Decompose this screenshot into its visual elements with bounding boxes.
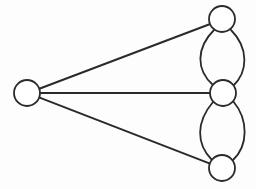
node-bottom[interactable]	[209, 155, 235, 181]
edge-middle-to-bottom-right-arc	[233, 101, 245, 160]
edge-left-to-bottom	[39, 97, 210, 163]
edge-middle-to-bottom-left-arc	[200, 102, 213, 160]
edge-left-to-top	[39, 24, 210, 89]
node-top[interactable]	[209, 6, 235, 32]
diagram-canvas	[0, 0, 256, 189]
edge-top-to-middle-left-arc	[200, 30, 214, 85]
node-left[interactable]	[14, 80, 40, 106]
node-middle[interactable]	[210, 80, 236, 106]
graph-diagram	[0, 0, 256, 189]
edge-top-to-middle-right-arc	[231, 30, 244, 86]
